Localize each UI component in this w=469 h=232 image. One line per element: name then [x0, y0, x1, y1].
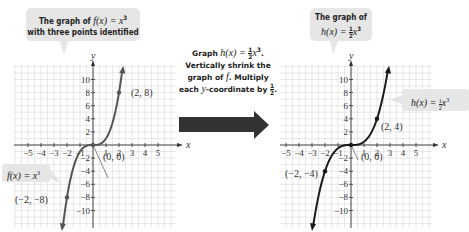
transform-arrow-icon [179, 111, 269, 139]
y-tick-label: −2 [338, 153, 348, 163]
x-tick-label: 5 [414, 148, 419, 158]
y-tick-label: 4 [86, 114, 91, 124]
callout-func: h(x) = [321, 26, 349, 37]
y-tick-label: 10 [339, 75, 349, 85]
callout-text: The graph of [310, 12, 372, 23]
x-tick-label: −4 [36, 148, 46, 158]
desc-func: h(x) = [220, 47, 248, 58]
x-tick-label: 5 [156, 148, 161, 158]
y-tick-label: 6 [86, 101, 91, 111]
callout-exp: 3 [357, 25, 361, 32]
y-tick-label: 2 [344, 127, 349, 137]
x-tick-label: −2 [62, 148, 72, 158]
desc-text: -coordinate by [206, 85, 270, 94]
x-tick-label: −5 [23, 148, 33, 158]
callout-line2: with three points identified [26, 27, 140, 38]
right-graph-callout: The graph of h(x) = 12x3 [310, 8, 372, 41]
callout-exp: 3 [123, 14, 127, 21]
y-tick-label: −6 [338, 179, 348, 189]
left-function-label: f(x) = x3 [2, 164, 50, 182]
x-axis-label: x [185, 139, 191, 150]
x-tick-label: 4 [401, 148, 406, 158]
y-tick-label: −4 [338, 166, 348, 176]
y-tick-label: 8 [344, 88, 349, 98]
x-tick-label: −3 [49, 148, 59, 158]
fraction: 12 [270, 83, 274, 96]
y-tick-label: 6 [344, 101, 349, 111]
label-func: f(x) = x [7, 170, 37, 181]
desc-exp: 3 [257, 46, 261, 53]
y-tick-label: 10 [81, 75, 91, 85]
point-label: (2, 8) [131, 87, 153, 99]
frac-den: 2 [270, 90, 274, 96]
x-tick-label: 3 [130, 148, 135, 158]
data-point [323, 169, 327, 173]
y-tick-label: 8 [86, 88, 91, 98]
desc-text: Graph [192, 49, 220, 58]
y-tick-label: −8 [80, 192, 90, 202]
label-exp: 3 [37, 170, 40, 176]
desc-line2: Vertically shrink the [178, 60, 278, 71]
y-tick-label: 2 [86, 127, 91, 137]
x-axis-label: x [441, 139, 447, 150]
transformation-description: Graph h(x) = 12x3. Vertically shrink the… [178, 44, 278, 96]
point-label: (−2, −4) [285, 168, 318, 180]
x-tick-label: −4 [294, 148, 304, 158]
point-label: (0, 0) [103, 151, 125, 163]
y-tick-label: −10 [334, 206, 349, 216]
label-exp: 3 [446, 97, 449, 103]
desc-text: graph of [187, 73, 225, 82]
y-axis-label: y [90, 50, 96, 61]
y-tick-label: −10 [76, 206, 91, 216]
data-point [375, 117, 379, 121]
x-tick-label: 3 [388, 148, 393, 158]
data-point [349, 143, 353, 147]
x-tick-label: −3 [307, 148, 317, 158]
y-tick-label: −8 [338, 192, 348, 202]
data-point [91, 143, 95, 147]
data-point [117, 90, 121, 94]
x-tick-label: 4 [143, 148, 148, 158]
callout-func: f(x) = x [93, 15, 123, 26]
y-tick-label: 4 [344, 114, 349, 124]
x-tick-label: −2 [320, 148, 330, 158]
label-pointer [390, 95, 402, 104]
label-func: h(x) = [411, 97, 439, 108]
y-tick-label: −2 [80, 153, 90, 163]
desc-text: . Multiply [229, 73, 269, 82]
point-label: (−2, −8) [15, 194, 48, 206]
point-label: (2, 4) [381, 121, 403, 133]
x-tick-label: −5 [281, 148, 291, 158]
y-tick-label: −6 [80, 179, 90, 189]
callout-pointer [330, 41, 338, 55]
y-tick-label: −4 [80, 166, 90, 176]
right-function-label: h(x) = 12x3 [402, 89, 469, 111]
data-point [65, 195, 69, 199]
left-graph-callout: The graph of f(x) = x3 with three points… [26, 8, 140, 41]
curve-arrow-icon [310, 223, 316, 231]
desc-text: each [179, 85, 202, 94]
callout-text: The graph of [39, 17, 93, 26]
callout-pointer [60, 41, 68, 55]
point-label: (0, 0) [361, 151, 383, 163]
curve-arrow-icon [119, 66, 125, 74]
y-axis-label: y [348, 50, 354, 61]
